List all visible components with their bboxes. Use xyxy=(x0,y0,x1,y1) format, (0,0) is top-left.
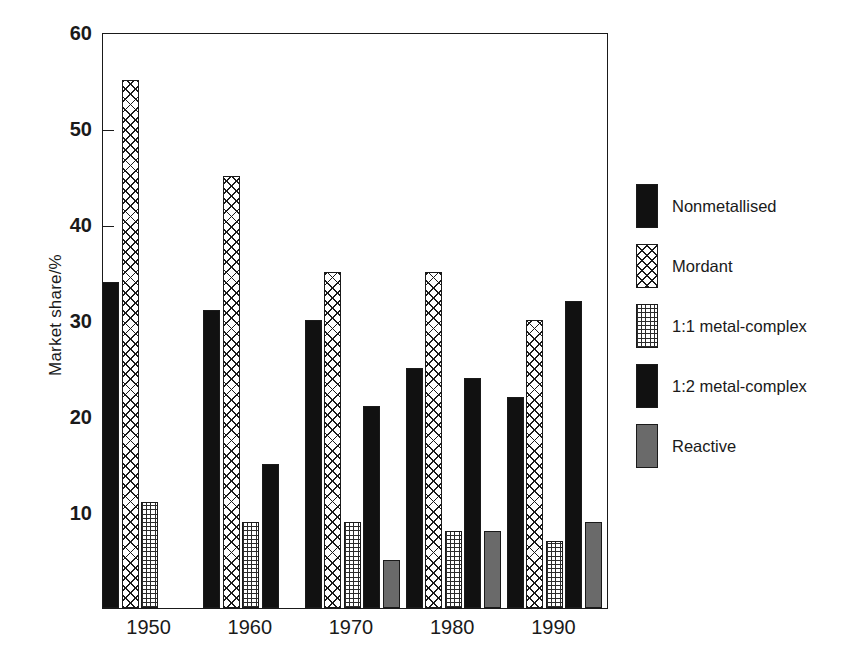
bar xyxy=(344,522,361,608)
x-axis-tick-label: 1960 xyxy=(195,617,305,637)
bar xyxy=(585,522,602,608)
bar xyxy=(565,301,582,608)
legend-swatch xyxy=(636,304,658,348)
bar xyxy=(223,176,240,608)
chart-legend: NonmetallisedMordant1:1 metal-complex1:2… xyxy=(636,176,848,476)
legend-swatch xyxy=(636,244,658,288)
y-axis-tick-labels: 102030405060 xyxy=(40,0,92,660)
legend-item-label: Mordant xyxy=(672,257,733,276)
y-axis-tick-label: 10 xyxy=(48,503,92,523)
plot-area xyxy=(102,33,608,609)
bar xyxy=(242,522,259,608)
bar xyxy=(141,502,158,608)
bar-chart-figure: Market share/% 102030405060 195019601970… xyxy=(0,0,851,660)
x-axis-tick-label: 1970 xyxy=(296,617,406,637)
legend-item-label: Reactive xyxy=(672,437,736,456)
bar xyxy=(324,272,341,608)
bars-layer xyxy=(103,34,607,608)
bar xyxy=(203,310,220,608)
legend-item: Nonmetallised xyxy=(636,176,848,236)
legend-item: Mordant xyxy=(636,236,848,296)
legend-item: 1:1 metal-complex xyxy=(636,296,848,356)
bar xyxy=(507,397,524,608)
bar xyxy=(425,272,442,608)
x-axis-tick-label: 1980 xyxy=(397,617,507,637)
legend-item-label: 1:2 metal-complex xyxy=(672,377,807,396)
bar xyxy=(546,541,563,608)
bar xyxy=(526,320,543,608)
y-axis-tick-label: 60 xyxy=(48,23,92,43)
y-axis-tick-label: 30 xyxy=(48,311,92,331)
bar xyxy=(406,368,423,608)
bar xyxy=(484,531,501,608)
x-axis-tick-label: 1950 xyxy=(94,617,204,637)
x-axis-tick-label: 1990 xyxy=(498,617,608,637)
bar xyxy=(305,320,322,608)
bar xyxy=(445,531,462,608)
legend-swatch xyxy=(636,184,658,228)
legend-item: 1:2 metal-complex xyxy=(636,356,848,416)
legend-swatch xyxy=(636,364,658,408)
bar xyxy=(122,80,139,608)
bar xyxy=(464,378,481,608)
y-axis-tick-label: 50 xyxy=(48,119,92,139)
x-axis-tick-labels: 19501960197019801990 xyxy=(102,617,608,651)
legend-item: Reactive xyxy=(636,416,848,476)
bar xyxy=(363,406,380,608)
legend-item-label: 1:1 metal-complex xyxy=(672,317,807,336)
y-axis-tick-label: 40 xyxy=(48,215,92,235)
bar xyxy=(102,282,119,608)
y-axis-tick-label: 20 xyxy=(48,407,92,427)
bar xyxy=(262,464,279,608)
legend-swatch xyxy=(636,424,658,468)
bar xyxy=(383,560,400,608)
legend-item-label: Nonmetallised xyxy=(672,197,777,216)
